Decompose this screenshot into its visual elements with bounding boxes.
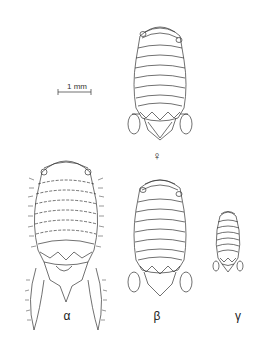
label-alpha: α: [61, 310, 73, 322]
label-female: ♀: [151, 150, 163, 162]
specimen-alpha-drawing: [25, 161, 107, 330]
specimen-female-drawing: [128, 27, 192, 140]
scale-bar-label: 1 mm: [67, 82, 87, 91]
label-beta: β: [151, 310, 163, 322]
label-gamma: γ: [232, 310, 244, 322]
specimen-beta-drawing: [128, 180, 192, 296]
specimen-gamma-drawing: [213, 212, 243, 273]
figure-drawing: [0, 0, 258, 344]
